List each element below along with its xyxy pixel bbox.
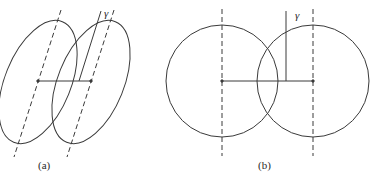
panel-a-angle-label: γ [104, 7, 109, 19]
right-center-mark [90, 80, 92, 82]
panel-b-caption: (b) [258, 159, 271, 172]
left-dashed-axis [14, 10, 61, 157]
left-ellipse [0, 9, 93, 154]
panel-b-angle-label: γ [295, 9, 300, 21]
right-center-mark [312, 80, 314, 82]
left-center-mark [37, 80, 39, 82]
angle-reference-line [79, 11, 101, 81]
panel-a [0, 9, 146, 157]
diagram-svg: γ (a) γ (b) [0, 0, 370, 179]
figure: γ (a) γ (b) [0, 0, 370, 179]
panel-b [166, 9, 369, 156]
panel-a-caption: (a) [38, 159, 51, 172]
right-dashed-axis [67, 10, 114, 157]
left-center-mark [221, 80, 223, 82]
